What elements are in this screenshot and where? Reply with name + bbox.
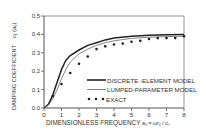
x-tick-label: 2 bbox=[77, 111, 81, 118]
exact-data-point bbox=[104, 45, 107, 48]
y-axis-ticks: 0.00.10.20.30.40.5 bbox=[32, 13, 44, 111]
x-tick-label: 5 bbox=[130, 111, 134, 118]
y-tick-label: 0.1 bbox=[32, 87, 41, 93]
exact-data-point bbox=[78, 63, 81, 66]
legend-label-discrete: DISCRETE -ELEMENT MODEL bbox=[107, 77, 195, 84]
legend: DISCRETE -ELEMENT MODEL LUMPED-PARAMETER… bbox=[87, 77, 197, 103]
exact-data-point bbox=[113, 43, 116, 46]
x-axis-symbol: a₀ = ωr₀ / cₛ bbox=[142, 120, 170, 126]
exact-data-point bbox=[165, 37, 168, 40]
x-tick-label: 3 bbox=[95, 111, 99, 118]
exact-data-point bbox=[60, 83, 63, 86]
exact-data-point bbox=[51, 95, 54, 98]
exact-data-point bbox=[148, 38, 151, 41]
exact-data-point bbox=[95, 48, 98, 51]
y-tick-label: 0.4 bbox=[32, 31, 41, 37]
exact-data-point bbox=[174, 37, 177, 40]
x-tick-label: 6 bbox=[147, 111, 151, 118]
y-tick-label: 0.0 bbox=[32, 105, 41, 111]
y-tick-label: 0.2 bbox=[32, 68, 41, 74]
exact-data-point bbox=[139, 40, 142, 43]
y-tick-label: 0.5 bbox=[32, 13, 41, 19]
x-tick-label: 0 bbox=[42, 111, 46, 118]
exact-data-point bbox=[183, 35, 186, 38]
exact-data-point bbox=[86, 55, 89, 58]
legend-dot bbox=[95, 98, 98, 101]
y-tick-label: 0.3 bbox=[32, 50, 41, 56]
legend-label-exact: EXACT bbox=[106, 96, 127, 103]
x-tick-label: 4 bbox=[112, 111, 116, 118]
exact-data-point bbox=[69, 72, 72, 75]
exact-data-point bbox=[130, 40, 133, 43]
legend-dot bbox=[88, 98, 91, 101]
legend-dot bbox=[102, 98, 105, 101]
legend-label-lumped: LUMPED-PARAMETER MODEL bbox=[107, 86, 197, 93]
y-axis-symbol: c₁ (a₀) bbox=[11, 22, 17, 38]
x-tick-label: 8 bbox=[182, 111, 186, 118]
x-axis-ticks: 012345678 bbox=[42, 108, 186, 118]
x-tick-label: 1 bbox=[60, 111, 64, 118]
x-axis-title: DIMENSIONLESS FREQUENCY bbox=[46, 119, 141, 127]
damping-coefficient-chart: 0.00.10.20.30.40.5 012345678 DISCRETE -E… bbox=[0, 0, 206, 133]
y-axis-label: DAMPING COEFFICIENT c₁ (a₀) bbox=[11, 22, 17, 110]
x-axis-label: DIMENSIONLESS FREQUENCY a₀ = ωr₀ / cₛ bbox=[46, 119, 170, 127]
y-axis-title: DAMPING COEFFICIENT bbox=[11, 44, 17, 110]
x-tick-label: 7 bbox=[165, 111, 169, 118]
exact-data-point bbox=[121, 42, 124, 45]
exact-data-point bbox=[156, 37, 159, 40]
